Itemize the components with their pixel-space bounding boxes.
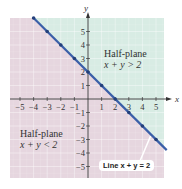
upper-half-plane-inequality: x + y > 2 xyxy=(104,59,147,70)
x-tick-label: 2 xyxy=(113,102,117,112)
y-tick-label: −3 xyxy=(76,135,85,145)
lower-half-plane-title: Half-plane xyxy=(20,128,63,139)
lower-half-plane-label: Half-plane x + y < 2 xyxy=(20,128,63,150)
line-point xyxy=(113,97,117,101)
x-tick-label: −5 xyxy=(15,102,24,112)
half-plane-graph: xy−5−4−3−2−112345−5−4−3−2−112345 xyxy=(0,0,182,189)
x-tick-label: 1 xyxy=(99,102,103,112)
x-axis-label: x xyxy=(174,94,179,104)
line-point xyxy=(141,124,145,128)
line-point xyxy=(100,84,104,88)
line-point xyxy=(59,43,63,47)
y-tick-label: 5 xyxy=(81,27,85,37)
line-point xyxy=(45,30,49,34)
x-tick-label: 4 xyxy=(140,102,145,112)
y-tick-label: −4 xyxy=(76,148,86,158)
x-tick-label: −2 xyxy=(56,102,65,112)
line-point xyxy=(32,16,36,20)
x-tick-label: −4 xyxy=(29,102,39,112)
line-equation-callout: Line x + y = 2 xyxy=(99,160,154,171)
upper-half-plane-title: Half-plane xyxy=(104,48,147,59)
line-point xyxy=(73,57,77,61)
y-tick-label: −1 xyxy=(76,108,85,118)
y-tick-label: −2 xyxy=(76,121,85,131)
y-tick-label: −5 xyxy=(76,162,85,172)
x-axis-arrow-icon xyxy=(166,97,172,101)
y-tick-label: 1 xyxy=(81,81,85,91)
y-axis-label: y xyxy=(83,3,88,13)
x-tick-label: 5 xyxy=(154,102,158,112)
line-point xyxy=(127,111,131,115)
lower-half-plane-inequality: x + y < 2 xyxy=(20,139,63,150)
line-point xyxy=(86,70,90,74)
x-tick-label: −3 xyxy=(43,102,52,112)
upper-half-plane-label: Half-plane x + y > 2 xyxy=(104,48,147,70)
line-point xyxy=(154,138,158,142)
y-tick-label: 3 xyxy=(81,54,85,64)
